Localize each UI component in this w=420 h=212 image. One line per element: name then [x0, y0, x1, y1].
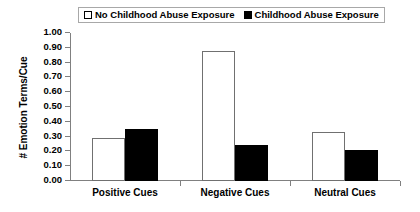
y-axis-tick: 0.60 [65, 91, 70, 92]
x-axis-tick [180, 181, 181, 186]
y-axis-tick: 0.10 [65, 165, 70, 166]
open-square-icon [84, 11, 92, 19]
y-axis-tick: 0.90 [65, 47, 70, 48]
y-axis-tick: 0.50 [65, 106, 70, 107]
filled-square-icon [244, 11, 252, 19]
y-axis-tick: 0.40 [65, 121, 70, 122]
bar [235, 145, 268, 181]
y-axis-tick-label: 0.10 [44, 159, 63, 170]
y-axis-tick-label: 0.20 [44, 144, 63, 155]
y-axis-tick-label: 1.00 [44, 26, 63, 37]
legend-item-childhood-abuse-exposure: Childhood Abuse Exposure [244, 10, 379, 20]
bar [312, 132, 345, 181]
y-axis-tick: 0.30 [65, 136, 70, 137]
bar-chart: No Childhood Abuse Exposure Childhood Ab… [0, 0, 420, 212]
legend-label: No Childhood Abuse Exposure [95, 10, 235, 20]
x-axis-category-label: Negative Cues [201, 187, 270, 198]
legend-item-no-childhood-abuse-exposure: No Childhood Abuse Exposure [84, 10, 235, 20]
legend-label: Childhood Abuse Exposure [255, 10, 379, 20]
y-axis-title: # Emotion Terms/Cue [18, 33, 29, 183]
y-axis-tick: 0.20 [65, 150, 70, 151]
y-axis-tick-label: 0.00 [44, 174, 63, 185]
bar [125, 129, 158, 181]
y-axis-tick-label: 0.60 [44, 85, 63, 96]
y-axis-line [70, 33, 71, 181]
x-axis-tick [400, 181, 401, 186]
bar [202, 51, 235, 181]
y-axis-tick: 1.00 [65, 32, 70, 33]
x-axis-category-label: Neutral Cues [314, 187, 376, 198]
y-axis-tick-label: 0.30 [44, 130, 63, 141]
y-axis-tick-label: 0.50 [44, 100, 63, 111]
x-axis-category-label: Positive Cues [92, 187, 158, 198]
y-axis-tick-label: 0.80 [44, 56, 63, 67]
y-axis-tick-label: 0.70 [44, 70, 63, 81]
y-axis-tick: 0.70 [65, 76, 70, 77]
y-axis-tick: 0.80 [65, 62, 70, 63]
x-axis-tick [290, 181, 291, 186]
y-axis-tick-label: 0.90 [44, 41, 63, 52]
bar [92, 138, 125, 181]
y-axis-tick: 0.00 [65, 180, 70, 181]
plot-area: 1.000.900.800.700.600.500.400.300.200.10… [70, 33, 400, 181]
y-axis-tick-label: 0.40 [44, 115, 63, 126]
chart-legend: No Childhood Abuse Exposure Childhood Ab… [78, 7, 385, 23]
bar [345, 150, 378, 181]
